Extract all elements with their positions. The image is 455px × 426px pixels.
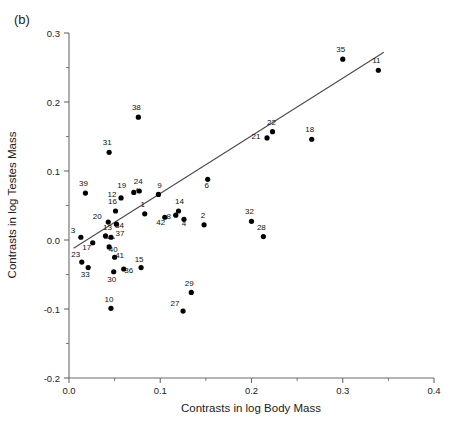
- data-point-label: 3: [71, 226, 76, 235]
- data-point-label: 20: [93, 212, 102, 221]
- data-point: [180, 308, 185, 313]
- data-point-label: 14: [175, 197, 184, 206]
- y-tick-label: -0.1: [44, 304, 60, 315]
- data-point: [138, 265, 143, 270]
- data-point: [113, 208, 118, 213]
- data-point: [261, 234, 266, 239]
- data-point: [118, 195, 123, 200]
- data-point-label: 29: [185, 279, 194, 288]
- data-point-label: 37: [116, 229, 125, 238]
- data-point: [108, 306, 113, 311]
- y-axis-ticks: -0.2-0.10.00.10.20.3: [44, 28, 69, 384]
- x-axis-title: Contrasts in log Body Mass: [181, 402, 321, 414]
- data-point: [78, 235, 83, 240]
- data-point-label: 9: [157, 181, 162, 190]
- data-point-label: 35: [336, 45, 345, 54]
- data-point: [156, 192, 161, 197]
- data-point-label: 13: [103, 223, 112, 232]
- y-tick-label: 0.3: [47, 28, 60, 39]
- data-point-label: 2: [201, 211, 206, 220]
- data-point-label: 17: [82, 243, 91, 252]
- data-point-label: 8: [167, 212, 172, 221]
- data-point: [376, 68, 381, 73]
- x-tick-label: 0.3: [336, 385, 349, 396]
- x-tick-label: 0.4: [427, 385, 440, 396]
- data-point-label: 22: [267, 118, 276, 127]
- data-point-label: 32: [245, 207, 254, 216]
- data-point: [201, 222, 206, 227]
- data-point-label: 28: [257, 223, 266, 232]
- data-point-label: 4: [182, 219, 187, 228]
- y-axis-title: Contrasts in log Testes Mass: [6, 131, 18, 278]
- data-point-label: 27: [171, 299, 180, 308]
- x-axis-ticks: 0.00.10.20.30.4: [62, 378, 440, 396]
- y-tick-label: 0.1: [47, 166, 60, 177]
- data-point: [79, 259, 84, 264]
- data-point-label: 38: [132, 103, 141, 112]
- data-point-label: 30: [107, 275, 116, 284]
- data-point: [83, 190, 88, 195]
- data-point: [249, 219, 254, 224]
- data-point-label: 41: [115, 251, 124, 260]
- data-point: [131, 190, 136, 195]
- data-point: [340, 57, 345, 62]
- data-point-label: 24: [134, 177, 143, 186]
- data-point-label: 42: [156, 218, 165, 227]
- data-point-label: 39: [79, 179, 88, 188]
- x-tick-label: 0.2: [245, 385, 258, 396]
- regression-line: [74, 52, 384, 248]
- data-point-label: 31: [103, 138, 112, 147]
- data-point-label: 21: [252, 132, 261, 141]
- data-point: [189, 290, 194, 295]
- data-point: [270, 129, 275, 134]
- data-point-label: 36: [124, 266, 133, 275]
- data-point: [142, 211, 147, 216]
- data-point: [137, 188, 142, 193]
- axes-group: [69, 33, 434, 378]
- data-point-label: 19: [117, 181, 126, 190]
- data-point: [264, 135, 269, 140]
- x-tick-label: 0.1: [154, 385, 167, 396]
- y-tick-label: 0.2: [47, 97, 60, 108]
- figure-panel-b: (b) -0.2-0.10.00.10.20.3 0.00.10.20.30.4…: [0, 0, 455, 426]
- data-point: [103, 233, 108, 238]
- data-point-label: 23: [71, 250, 80, 259]
- data-point: [136, 115, 141, 120]
- data-point-label: 11: [372, 56, 381, 65]
- y-tick-label: 0.0: [47, 235, 60, 246]
- data-point-label: 16: [108, 197, 117, 206]
- x-tick-label: 0.0: [62, 385, 75, 396]
- regression-line-group: [74, 52, 384, 248]
- data-point: [111, 269, 116, 274]
- data-point-label: 18: [305, 125, 314, 134]
- scatter-plot: -0.2-0.10.00.10.20.3 0.00.10.20.30.4 393…: [0, 0, 455, 426]
- data-point-labels-group: 3931381219249161203414842431337174026322…: [71, 45, 381, 308]
- y-tick-label: -0.2: [44, 373, 60, 384]
- data-point-label: 6: [204, 181, 209, 190]
- data-point-label: 15: [135, 255, 144, 264]
- data-point: [108, 235, 113, 240]
- data-point: [309, 137, 314, 142]
- data-point-label: 1: [141, 200, 146, 209]
- data-point: [107, 150, 112, 155]
- data-point-label: 33: [81, 270, 90, 279]
- data-point: [173, 213, 178, 218]
- data-point-label: 10: [105, 295, 114, 304]
